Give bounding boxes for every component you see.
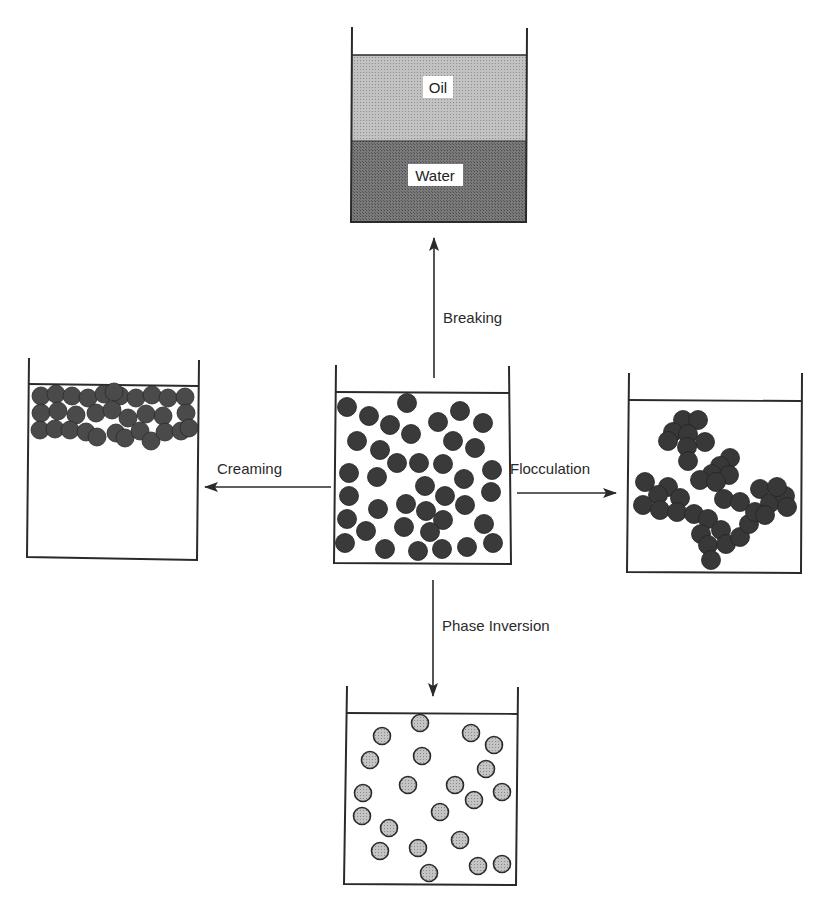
dark-droplets: [336, 394, 503, 561]
water-label: Water: [415, 167, 454, 184]
breaking-beaker: Oil Water: [351, 27, 527, 222]
light-droplets: [354, 715, 511, 882]
emulsion-instability-diagram: Oil Water Breaking: [0, 0, 834, 912]
oil-label: Oil: [429, 79, 447, 96]
phase-inversion-beaker: [344, 686, 518, 885]
flocculation-beaker: [627, 373, 802, 573]
creaming-arrow: Creaming: [205, 460, 331, 487]
beaker-outline: [344, 686, 518, 885]
flocculated-droplets: [634, 411, 797, 570]
breaking-arrow: Breaking: [434, 238, 502, 378]
breaking-label: Breaking: [443, 309, 502, 326]
phase-inversion-label: Phase Inversion: [442, 617, 550, 634]
flocculation-arrow: Flocculation: [510, 460, 616, 493]
creaming-beaker: [27, 358, 199, 560]
flocculation-label: Flocculation: [510, 460, 590, 477]
creaming-label: Creaming: [217, 460, 282, 477]
center-beaker: [334, 365, 511, 564]
creamed-droplets: [31, 383, 198, 450]
phase-inversion-arrow: Phase Inversion: [433, 580, 550, 696]
